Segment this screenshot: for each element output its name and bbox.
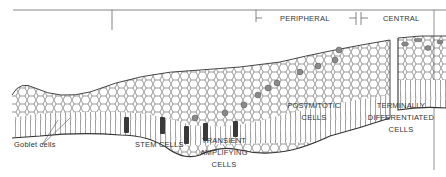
label-line: AMPLIFYING — [194, 147, 254, 159]
label-postmitotic: POSTMITOTIC CELLS — [314, 100, 344, 124]
label-line: POSTMITOTIC — [284, 100, 344, 112]
region-label-peripheral: PERIPHERAL — [280, 13, 330, 25]
region-label-central: CENTRAL — [383, 13, 419, 25]
label-line: TRANSIENT — [194, 135, 254, 147]
label-line: TERMINALLY — [366, 100, 436, 112]
label-stem-cells: STEM CELLS — [135, 139, 184, 151]
epithelium-diagram: PERIPHERAL CENTRAL Goblet cells STEM CEL… — [0, 0, 446, 177]
label-line: CELLS — [366, 124, 436, 136]
label-transient-amplifying: TRANSIENT AMPLIFYING CELLS — [224, 135, 254, 171]
label-line: CELLS — [284, 112, 344, 124]
label-terminally-differentiated: TERMINALLY DIFFERENTIATED CELLS — [401, 100, 436, 136]
label-line: DIFFERENTIATED — [366, 112, 436, 124]
label-line: CELLS — [194, 159, 254, 171]
label-goblet-cells: Goblet cells — [14, 139, 56, 151]
